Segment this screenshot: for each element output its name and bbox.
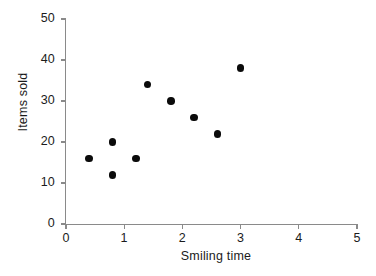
x-tick-3	[240, 224, 241, 229]
x-tick-label-3: 3	[226, 231, 256, 245]
x-axis-title-text: Smiling time	[181, 249, 251, 263]
x-tick-label-5: 5	[342, 231, 372, 245]
y-tick-20	[61, 141, 66, 142]
x-tick-label-4: 4	[284, 231, 314, 245]
x-axis-title: Smiling time	[0, 249, 376, 263]
y-tick-40	[61, 59, 66, 60]
y-tick-label-0: 0	[21, 216, 55, 230]
y-axis-title: Items sold	[16, 57, 30, 147]
x-tick-1	[124, 224, 125, 229]
x-tick-0	[65, 224, 66, 229]
plot-area	[66, 19, 357, 224]
data-point	[214, 130, 222, 138]
scatter-plot-figure: 01020304050 012345 Items sold Smiling ti…	[0, 0, 376, 276]
x-tick-label-2: 2	[167, 231, 197, 245]
data-point	[132, 155, 140, 163]
data-point	[85, 155, 93, 163]
x-tick-4	[298, 224, 299, 229]
data-point	[237, 64, 245, 72]
x-tick-5	[356, 224, 357, 229]
data-point	[190, 114, 198, 122]
x-tick-label-0: 0	[51, 231, 81, 245]
data-point	[109, 171, 117, 179]
data-point	[109, 138, 117, 146]
y-tick-10	[61, 182, 66, 183]
x-tick-2	[182, 224, 183, 229]
y-tick-label-50: 50	[21, 11, 55, 25]
y-tick-30	[61, 100, 66, 101]
y-tick-label-10: 10	[21, 175, 55, 189]
y-tick-50	[61, 18, 66, 19]
data-point	[144, 81, 152, 89]
x-tick-label-1: 1	[109, 231, 139, 245]
data-point	[167, 97, 175, 105]
